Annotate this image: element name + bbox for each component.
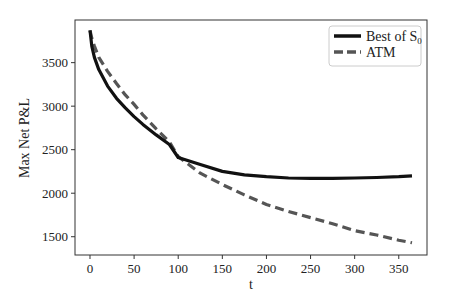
- y-axis-ticks: 15002000250030003500: [42, 55, 75, 244]
- x-tick-label: 300: [345, 261, 365, 276]
- x-tick-label: 150: [213, 261, 233, 276]
- y-tick-label: 3000: [42, 99, 68, 114]
- x-axis-label: t: [249, 277, 253, 292]
- x-tick-label: 0: [87, 261, 94, 276]
- line-chart: 050100150200250300350 150020002500300035…: [0, 0, 450, 305]
- x-tick-label: 350: [389, 261, 409, 276]
- x-tick-label: 100: [168, 261, 188, 276]
- y-tick-label: 2500: [42, 142, 68, 157]
- y-tick-label: 2000: [42, 186, 68, 201]
- x-tick-label: 200: [257, 261, 277, 276]
- legend: Best of S0 ATM: [329, 26, 422, 66]
- legend-label-atm: ATM: [366, 45, 396, 60]
- y-axis-label: Max Net P&L: [17, 98, 32, 178]
- legend-label-best-of-s0: Best of S0: [366, 29, 422, 46]
- x-tick-label: 50: [128, 261, 141, 276]
- x-tick-label: 250: [301, 261, 321, 276]
- x-axis-ticks: 050100150200250300350: [87, 255, 409, 276]
- y-tick-label: 1500: [42, 229, 68, 244]
- y-tick-label: 3500: [42, 55, 68, 70]
